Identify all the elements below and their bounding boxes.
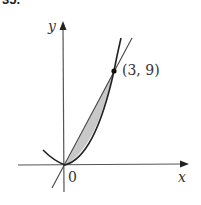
x-axis-label: x (178, 169, 186, 185)
intersection-label: (3, 9) (122, 62, 160, 78)
intersection-point-marker (111, 68, 116, 73)
y-axis-label: y (47, 18, 57, 34)
graph-figure: 35. (3, 9) y x 0 (0, 0, 201, 205)
y-axis-arrow-icon (60, 21, 67, 30)
x-axis-arrow-icon (180, 161, 189, 168)
problem-number: 35. (2, 0, 20, 7)
x-axis (18, 164, 184, 165)
origin-label: 0 (68, 169, 77, 185)
